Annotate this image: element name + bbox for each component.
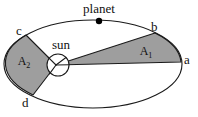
point-a-label: a [184,53,190,66]
area-a1-subscript: 1 [148,51,152,60]
area-a1-letter: A [140,44,149,58]
point-d-label: d [22,96,29,109]
point-c-label: c [16,24,22,37]
sun-label: sun [52,38,70,51]
planet-dot-icon [96,18,102,24]
planet-label: planet [83,2,115,15]
area-a2-letter: A [18,54,27,68]
area-a2-subscript: 2 [26,61,30,70]
area-a1-label: A1 [140,45,153,60]
area-a2-label: A2 [18,55,31,70]
point-b-label: b [151,20,158,33]
sector-a1-shape [56,33,181,65]
kepler-second-law-figure: planet sun a b c d A1 A2 [0,0,198,117]
